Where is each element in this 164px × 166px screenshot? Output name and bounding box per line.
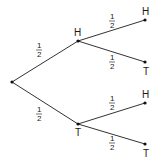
leaf-node-hh <box>143 18 146 21</box>
fraction-denominator: 2 <box>110 103 115 112</box>
fraction-denominator: 2 <box>110 62 115 71</box>
fraction-numerator: 1 <box>37 105 42 114</box>
root-node <box>10 80 13 83</box>
probability-h-to-h: 1 2 <box>109 12 115 30</box>
probability-t-to-t: 1 2 <box>109 134 115 152</box>
mid-node-t <box>76 122 79 125</box>
fraction-numerator: 1 <box>110 53 115 62</box>
edge-root-to-t <box>12 82 78 124</box>
fraction-denominator: 2 <box>110 143 115 152</box>
mid-node-h <box>76 39 79 42</box>
leaf-label-th: H <box>142 89 149 100</box>
probability-root-to-h: 1 2 <box>36 41 42 59</box>
fraction-numerator: 1 <box>110 134 115 143</box>
mid-label-h: H <box>74 27 81 38</box>
fraction-denominator: 2 <box>37 114 42 123</box>
leaf-node-th <box>143 101 146 104</box>
mid-label-t: T <box>75 127 81 138</box>
leaf-label-ht: T <box>143 66 149 77</box>
probability-h-to-t: 1 2 <box>109 53 115 71</box>
fraction-denominator: 2 <box>37 50 42 59</box>
fraction-numerator: 1 <box>110 94 115 103</box>
leaf-label-tt: T <box>143 148 149 159</box>
probability-t-to-h: 1 2 <box>109 94 115 112</box>
probability-tree-diagram: H T H T H T 1 2 1 2 1 2 1 2 1 2 1 2 <box>0 0 164 166</box>
fraction-denominator: 2 <box>110 21 115 30</box>
fraction-numerator: 1 <box>37 41 42 50</box>
probability-root-to-t: 1 2 <box>36 105 42 123</box>
leaf-label-hh: H <box>142 6 149 17</box>
leaf-node-ht <box>143 60 146 63</box>
fraction-numerator: 1 <box>110 12 115 21</box>
leaf-node-tt <box>143 142 146 145</box>
edge-root-to-h <box>12 41 78 82</box>
